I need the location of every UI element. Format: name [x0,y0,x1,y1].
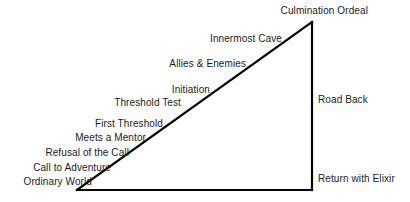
hypotenuse-line [77,22,312,190]
stage-label-call-to-adventure: Call to Adventure [33,162,111,174]
stage-label-initiation: Initiation [172,84,210,96]
stage-label-meets-a-mentor: Meets a Mentor [75,132,146,144]
stage-label-allies-and-enemies: Allies & Enemies [169,58,246,70]
stage-label-refusal-of-the-call: Refusal of the Call [45,147,129,159]
stage-label-culmination-ordeal: Culmination Ordeal [281,5,368,17]
stage-label-first-threshold: First Threshold [95,118,163,130]
stage-label-ordinary-world: Ordinary World [24,176,92,188]
stage-label-innermost-cave: Innermost Cave [210,33,282,45]
stage-label-road-back: Road Back [318,94,368,106]
stage-label-return-with-elixir: Return with Elixir [318,173,395,185]
hero-journey-diagram: Culmination Ordeal Innermost Cave Allies… [0,0,410,202]
stage-label-threshold-test: Threshold Test [114,97,181,109]
